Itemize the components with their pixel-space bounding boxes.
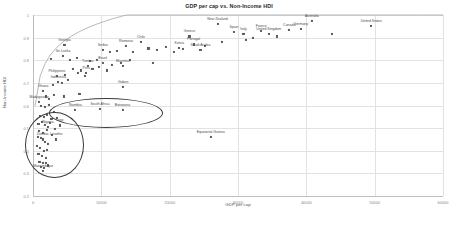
data-point-label: Australia bbox=[305, 14, 319, 18]
x-axis-line bbox=[33, 196, 443, 197]
gridline-horizontal bbox=[33, 15, 443, 16]
data-point[interactable] bbox=[311, 20, 313, 22]
data-point[interactable] bbox=[178, 47, 180, 49]
data-point-unlabeled[interactable] bbox=[245, 39, 247, 41]
data-point-unlabeled[interactable] bbox=[52, 84, 54, 86]
data-point-unlabeled[interactable] bbox=[156, 49, 158, 51]
data-point-unlabeled[interactable] bbox=[98, 66, 100, 68]
data-point-label: Brazil bbox=[98, 56, 107, 60]
low-income-africa-circle bbox=[25, 112, 83, 177]
data-point-label: Indonesia bbox=[51, 75, 66, 79]
data-point[interactable] bbox=[370, 25, 372, 27]
data-point-label: Greece bbox=[184, 29, 195, 33]
data-point-label: Saudi Arabia bbox=[190, 43, 210, 47]
data-point-unlabeled[interactable] bbox=[78, 93, 80, 95]
data-point[interactable] bbox=[85, 72, 87, 74]
data-point-label: Mauritius bbox=[116, 59, 130, 63]
data-point-label: United Kingdom bbox=[256, 27, 281, 31]
y-axis-label: Non-Income HDI bbox=[2, 33, 7, 153]
data-point-label: Philippines bbox=[48, 69, 65, 73]
data-point[interactable] bbox=[242, 33, 244, 35]
data-point-label: Spain bbox=[229, 25, 238, 29]
data-point-label: New Zealand bbox=[207, 17, 228, 21]
data-point-unlabeled[interactable] bbox=[165, 46, 167, 48]
data-point-unlabeled[interactable] bbox=[76, 56, 78, 58]
data-point[interactable] bbox=[300, 28, 302, 30]
data-point-unlabeled[interactable] bbox=[108, 51, 110, 53]
data-point-unlabeled[interactable] bbox=[116, 50, 118, 52]
data-point[interactable] bbox=[102, 49, 104, 51]
data-point[interactable] bbox=[210, 136, 212, 138]
data-point-unlabeled[interactable] bbox=[72, 68, 74, 70]
data-point-unlabeled[interactable] bbox=[84, 75, 86, 77]
y-tick-label: 0.8 bbox=[24, 58, 29, 63]
gridline-horizontal bbox=[33, 128, 443, 129]
page-title: GDP per cap vs. Non-Income HDI bbox=[0, 3, 458, 9]
data-point[interactable] bbox=[42, 90, 44, 92]
data-point[interactable] bbox=[125, 45, 127, 47]
data-point-label: Serbia bbox=[98, 43, 108, 47]
data-point-label: Canada bbox=[283, 23, 295, 27]
data-point-unlabeled[interactable] bbox=[106, 69, 108, 71]
data-point-unlabeled[interactable] bbox=[276, 35, 278, 37]
data-point-unlabeled[interactable] bbox=[132, 51, 134, 53]
data-point-unlabeled[interactable] bbox=[96, 59, 98, 61]
data-point-unlabeled[interactable] bbox=[67, 79, 69, 81]
data-point-unlabeled[interactable] bbox=[69, 59, 71, 61]
data-point[interactable] bbox=[288, 29, 290, 31]
data-point-unlabeled[interactable] bbox=[147, 47, 149, 49]
data-point-label: Italy bbox=[240, 27, 246, 31]
data-point-unlabeled[interactable] bbox=[61, 82, 63, 84]
data-point[interactable] bbox=[57, 81, 59, 83]
data-point-unlabeled[interactable] bbox=[53, 94, 55, 96]
plot-area: GeorgiaSri LankaSerbiaRomaniaChileGreece… bbox=[33, 15, 443, 196]
x-axis-label: GDP per cap bbox=[33, 202, 443, 207]
data-point[interactable] bbox=[122, 86, 124, 88]
data-point-unlabeled[interactable] bbox=[152, 61, 154, 63]
data-point[interactable] bbox=[102, 61, 104, 63]
gridline-vertical bbox=[443, 15, 444, 196]
data-point-unlabeled[interactable] bbox=[80, 69, 82, 71]
data-point-unlabeled[interactable] bbox=[221, 41, 223, 43]
gridline-horizontal bbox=[33, 173, 443, 174]
data-point[interactable] bbox=[63, 44, 65, 46]
data-point[interactable] bbox=[268, 33, 270, 35]
y-tick-label: 0.3 bbox=[24, 171, 29, 176]
y-tick-label: 0.4 bbox=[24, 148, 29, 153]
data-point-unlabeled[interactable] bbox=[91, 68, 93, 70]
data-point-label: Gabon bbox=[118, 80, 129, 84]
data-point[interactable] bbox=[87, 65, 89, 67]
data-point[interactable] bbox=[38, 101, 40, 103]
gridline-horizontal bbox=[33, 151, 443, 152]
data-point-unlabeled[interactable] bbox=[252, 37, 254, 39]
data-point-unlabeled[interactable] bbox=[40, 104, 42, 106]
data-point-unlabeled[interactable] bbox=[63, 95, 65, 97]
data-point-label: Romania bbox=[119, 39, 133, 43]
scatter-chart: GDP per cap vs. Non-Income HDI GeorgiaSr… bbox=[0, 0, 458, 225]
data-point[interactable] bbox=[199, 49, 201, 51]
data-point-label: Portugal bbox=[187, 37, 200, 41]
data-point-unlabeled[interactable] bbox=[331, 33, 333, 35]
data-point[interactable] bbox=[122, 65, 124, 67]
data-point[interactable] bbox=[233, 31, 235, 33]
data-point-unlabeled[interactable] bbox=[111, 64, 113, 66]
gridline-horizontal bbox=[33, 38, 443, 39]
data-point-label: Equatorial Guinea bbox=[197, 130, 225, 134]
y-tick-label: 0.9 bbox=[24, 35, 29, 40]
y-tick-label: 0.6 bbox=[24, 103, 29, 108]
data-point-unlabeled[interactable] bbox=[50, 58, 52, 60]
data-point-unlabeled[interactable] bbox=[173, 51, 175, 53]
data-point[interactable] bbox=[216, 23, 218, 25]
data-point-label: Tunisia bbox=[82, 59, 93, 63]
data-point-unlabeled[interactable] bbox=[44, 106, 46, 108]
y-tick-label: 0.7 bbox=[24, 80, 29, 85]
data-point-unlabeled[interactable] bbox=[77, 72, 79, 74]
data-point-label: United States bbox=[361, 19, 382, 23]
data-point[interactable] bbox=[62, 55, 64, 57]
gridline-horizontal bbox=[33, 83, 443, 84]
data-point-unlabeled[interactable] bbox=[48, 104, 50, 106]
data-point-unlabeled[interactable] bbox=[182, 48, 184, 50]
data-point-label: Sri Lanka bbox=[56, 49, 71, 53]
data-point[interactable] bbox=[140, 41, 142, 43]
data-point-label: Germany bbox=[294, 22, 308, 26]
